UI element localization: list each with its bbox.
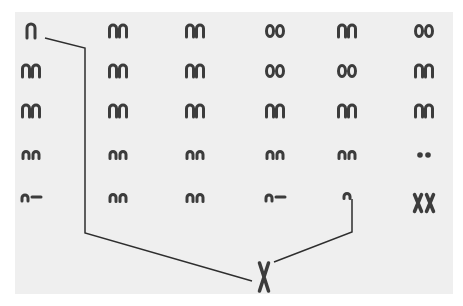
chromosome-pair bbox=[110, 25, 127, 37]
chromosome-pair bbox=[110, 65, 127, 77]
chromosome-pair bbox=[266, 195, 285, 201]
chromosome-pair bbox=[339, 66, 356, 77]
chromosome-pair bbox=[187, 25, 204, 37]
chromosome-pair bbox=[267, 152, 283, 159]
chromosome-pair bbox=[187, 152, 203, 159]
left-connector bbox=[45, 38, 252, 281]
chromosome-pair bbox=[110, 105, 127, 117]
chromosome-pair bbox=[415, 195, 434, 212]
chromosome-pair bbox=[187, 105, 204, 117]
bottom-x-chromosome bbox=[260, 263, 269, 291]
chromosome-pair bbox=[23, 65, 40, 77]
right-connector bbox=[274, 199, 352, 262]
karyotype-figure bbox=[0, 0, 463, 306]
chromosome-pair bbox=[416, 26, 433, 37]
chromosome-pair bbox=[267, 66, 284, 77]
chromosome-pair bbox=[344, 194, 350, 199]
chromosome-pair bbox=[23, 152, 39, 159]
chromosome-pair bbox=[339, 105, 356, 117]
chromosome-pair bbox=[22, 195, 41, 201]
chromosome-pair bbox=[110, 152, 126, 159]
chromosome-pair bbox=[416, 65, 433, 77]
chromosome-pair bbox=[416, 105, 433, 117]
chromosome-pair bbox=[110, 195, 126, 202]
chromosome-pair bbox=[23, 105, 40, 117]
chromosome-pair bbox=[187, 195, 203, 202]
chromosome-pair bbox=[417, 152, 431, 158]
chromosome-grid bbox=[22, 24, 434, 212]
connector-lines bbox=[45, 38, 352, 281]
chromosome-pair bbox=[339, 152, 355, 159]
chromosome-pair bbox=[27, 24, 35, 38]
chromosome-pair bbox=[339, 25, 356, 37]
chromosome-pair bbox=[267, 105, 284, 117]
chromosome-pair bbox=[267, 26, 284, 37]
chromosome-pair bbox=[187, 65, 204, 77]
